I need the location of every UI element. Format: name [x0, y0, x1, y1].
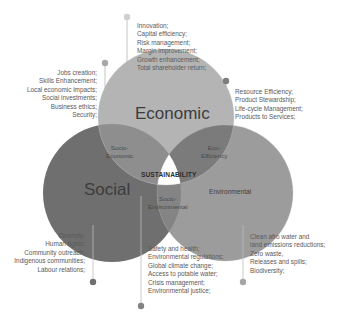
socio-environmental-annotation: Safety and health; Environmental regulat… [148, 245, 224, 295]
socio-economic-marker-dot [102, 60, 108, 66]
economic-marker-dot [124, 14, 130, 20]
socio-environmental-label: Socio- Environmental [148, 195, 188, 210]
social-annotation: Diversity; Human rights; Community outre… [14, 232, 85, 274]
socio-economic-label: Socio- Economic [106, 144, 133, 159]
socio-economic-annotation: Jobs creation; Skills Enhancement; Local… [27, 69, 97, 119]
social-label: Social [84, 180, 130, 200]
eco-efficiency-label: Eco- Efficiency [201, 144, 227, 159]
environmental-label: Environmental [209, 188, 251, 195]
environmental-annotation: Clean afro water and land emissions redu… [250, 233, 325, 275]
socio-environmental-marker-dot [138, 303, 144, 309]
social-marker-dot [90, 279, 96, 285]
sustainability-label: SUSTAINABILITY [141, 171, 197, 178]
eco-efficiency-annotation: Resource Efficiency; Product Stewardship… [235, 88, 303, 122]
economic-annotation: Innovation; Capital efficiency; Risk man… [137, 22, 206, 72]
economic-label: Economic [135, 104, 210, 124]
eco-efficiency-marker-dot [223, 78, 229, 84]
environmental-marker-dot [240, 279, 246, 285]
